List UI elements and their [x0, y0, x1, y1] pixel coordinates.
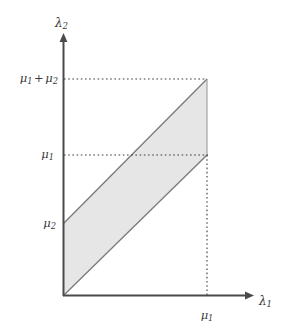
x-axis-arrowhead	[245, 292, 254, 300]
y-tick-label-mu2: μ2	[0, 218, 56, 231]
mu1-base: μ	[41, 147, 48, 161]
mu1-subscript: 1	[49, 152, 54, 162]
x-axis-label-subscript: 1	[267, 299, 273, 309]
mu1-subscript: 1	[208, 313, 213, 323]
plus-operator: +	[33, 71, 46, 85]
y-axis-label: λ2	[55, 17, 68, 31]
x-tick-label-mu1: μ1	[201, 310, 214, 323]
mu2-subscript: 2	[51, 221, 56, 231]
y-axis-label-base: λ	[55, 16, 63, 30]
x-axis-label: λ1	[259, 295, 272, 309]
y-axis-arrowhead	[60, 33, 68, 42]
mu2-base: μ	[45, 71, 52, 85]
figure-canvas: λ2 λ1 μ1+μ2 μ1 μ2 μ1	[0, 0, 289, 332]
y-tick-label-mu1-plus-mu2: μ1+μ2	[0, 73, 58, 86]
mu1-subscript: 1	[27, 76, 32, 86]
shaded-region-polygon	[63, 79, 207, 296]
mu2-base: μ	[43, 216, 50, 230]
y-axis-label-subscript: 2	[63, 21, 69, 31]
x-axis-label-base: λ	[259, 294, 267, 308]
plot-svg	[0, 0, 289, 332]
y-tick-label-mu1: μ1	[0, 149, 54, 162]
mu2-subscript: 2	[53, 76, 58, 86]
